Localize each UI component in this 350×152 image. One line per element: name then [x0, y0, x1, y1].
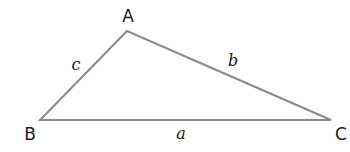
vertex-label-a: A	[122, 6, 134, 26]
triangle-abc	[40, 31, 331, 120]
vertex-label-b: B	[24, 124, 36, 144]
vertex-label-c: C	[335, 124, 347, 144]
side-label-a: a	[176, 124, 186, 143]
side-label-c: c	[72, 55, 81, 74]
triangle-diagram: A B C c b a	[0, 0, 350, 152]
side-label-b: b	[228, 51, 238, 70]
